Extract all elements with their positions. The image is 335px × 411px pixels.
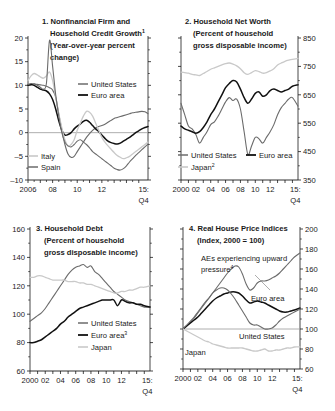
panel-1-title: 1. Nonfinancial Firm and Household Credi…: [42, 17, 145, 62]
p4-ytick-0: 200: [305, 225, 318, 234]
panel-3-legend-label-japan: Japan: [91, 343, 112, 352]
panel-1-legend-label-spain: Spain: [41, 163, 60, 172]
panel-2-legend-label-japan: Japan2: [191, 162, 215, 172]
p3-ytick-0: 160: [12, 225, 25, 234]
p3-series-japan: [30, 276, 150, 293]
p4-xtick-second-line: Q4: [292, 385, 302, 394]
p3-ytick-4: 80: [17, 338, 25, 347]
panel-1-legend: United States Euro area Italy Spain: [28, 80, 137, 172]
panel-4-title-line-1: 4. Real House Price Indices: [189, 224, 288, 233]
p3-ytick-5: 60: [17, 367, 25, 376]
p4-xtick-4: 08: [238, 374, 246, 383]
p3-series-united-states: [30, 264, 150, 321]
p1-ytick-3: 5: [19, 105, 23, 114]
p2-xtick-2: 04: [206, 185, 214, 194]
figure-container: 1. Nonfinancial Firm and Household Credi…: [0, 0, 335, 411]
p2-series-japan: [181, 58, 298, 75]
p4-ytick-3: 140: [305, 285, 318, 294]
p1-ytick-2: 10: [15, 81, 23, 90]
panel-4-title-line-2: (Index, 2000 = 100): [197, 236, 265, 245]
p4-xtick-7: 15:: [292, 374, 303, 383]
p2-xtick-second-line: Q4: [290, 196, 300, 205]
panel-3-legend-label-us: United States: [91, 319, 137, 328]
p4-ytick-5: 100: [305, 325, 318, 334]
panel-2-legend-label-ea: Euro area: [259, 151, 293, 160]
p3-ytick-2: 120: [12, 282, 25, 291]
p4-ytick-7: 60: [305, 365, 313, 374]
p4-ytick-4: 120: [305, 305, 318, 314]
p4-ytick-6: 80: [305, 345, 313, 354]
panel-4-annotation-aes-line-1: AEs experiencing upward: [201, 254, 287, 263]
p2-series-united-states: [181, 97, 298, 155]
p3-ytick-3: 100: [12, 310, 25, 319]
p1-xtick-2: 10: [73, 185, 81, 194]
p2-ytick-3: 550: [303, 119, 316, 128]
p1-ytick-4: 0: [19, 128, 23, 137]
p1-xtick-second-line: Q4: [139, 196, 149, 205]
panel-3-title: 3. Household Debt (Percent of household …: [36, 224, 138, 257]
panel-2-title-line-3: gross disposable income): [193, 41, 287, 50]
p2-xtick-0: 2000: [173, 185, 190, 194]
panel-2-title-line-1: 2. Household Net Worth: [185, 17, 271, 26]
panel-1-title-line-3: (Year-over-year percent: [50, 41, 135, 50]
p2-ytick-0: 850: [303, 34, 316, 43]
p3-xtick-0: 2000: [22, 376, 39, 385]
p1-xtick-3: 12: [98, 185, 106, 194]
panel-4-real-house-price-indices: 4. Real House Price Indices (Index, 2000…: [167, 205, 335, 411]
p4-xtick-2: 04: [208, 374, 216, 383]
p3-xtick-1: 02: [41, 376, 49, 385]
p1-ytick-1: 15: [15, 57, 23, 66]
panel-4-annotations: AEs experiencing upward pressure4 Euro a…: [185, 254, 287, 357]
panel-4-chart: 4. Real House Price Indices (Index, 2000…: [167, 205, 335, 411]
panel-1-title-line-4: change): [50, 53, 80, 62]
p2-ytick-5: 350: [303, 176, 316, 185]
p4-xtick-6: 12: [268, 374, 276, 383]
panel-4-title: 4. Real House Price Indices (Index, 2000…: [189, 224, 288, 245]
p4-ytick-2: 160: [305, 265, 318, 274]
panel-3-title-line-3: gross disposable income): [44, 248, 138, 257]
panel-1-chart: 1. Nonfinancial Firm and Household Credi…: [0, 0, 168, 206]
panel-3-legend: United States Euro area3 Japan: [78, 319, 137, 352]
panel-2-title-line-2: (Percent of household: [193, 29, 274, 38]
p2-ytick-4: 450: [303, 147, 316, 156]
p1-series-spain: [28, 40, 148, 170]
panel-1-title-line-1: 1. Nonfinancial Firm and: [42, 17, 131, 26]
p4-ytick-1: 180: [305, 245, 318, 254]
panel-1-legend-label-us: United States: [91, 80, 137, 89]
p2-ytick-1: 750: [303, 62, 316, 71]
p2-xtick-1: 02: [192, 185, 200, 194]
panel-1-legend-label-italy: Italy: [41, 152, 55, 161]
p3-xtick-4: 08: [87, 376, 95, 385]
p4-xtick-5: 10: [253, 374, 261, 383]
p3-xtick-7: 15:: [142, 376, 153, 385]
p2-xtick-7: 15:: [290, 185, 301, 194]
panel-4-annotation-japan: Japan: [185, 348, 206, 357]
panel-2-axes: [178, 36, 301, 183]
panel-3-title-line-1: 3. Household Debt: [36, 224, 103, 233]
p2-xtick-4: 08: [236, 185, 244, 194]
panel-2-legend-label-us: United States: [191, 151, 237, 160]
p1-ytick-0: 20: [15, 34, 23, 43]
p3-xtick-2: 04: [56, 376, 64, 385]
panel-3-series: [30, 264, 150, 342]
panel-4-annotation-aes-line-2: pressure4: [201, 264, 234, 274]
p3-xtick-3: 06: [71, 376, 79, 385]
p2-xtick-3: 06: [221, 185, 229, 194]
panel-3-household-debt: 3. Household Debt (Percent of household …: [0, 205, 168, 411]
panel-2-household-net-worth: 2. Household Net Worth (Percent of house…: [167, 0, 335, 206]
p2-xtick-6: 12: [266, 185, 274, 194]
p3-xtick-5: 10: [102, 376, 110, 385]
panel-4-annotation-euro-area: Euro area: [251, 294, 285, 303]
p1-ytick-5: –5: [15, 152, 23, 161]
panel-1-nonfinancial-firm-household-credit-growth: 1. Nonfinancial Firm and Household Credi…: [0, 0, 168, 206]
panel-2-title: 2. Household Net Worth (Percent of house…: [185, 17, 287, 50]
p1-xtick-4: 15:: [138, 185, 149, 194]
p4-xtick-1: 02: [194, 374, 202, 383]
p3-xtick-6: 12: [117, 376, 125, 385]
panel-3-chart: 3. Household Debt (Percent of household …: [0, 205, 168, 411]
panel-1-series: [28, 40, 148, 170]
p3-ytick-1: 140: [12, 253, 25, 262]
panel-2-legend: United States Euro area Japan2: [178, 151, 293, 172]
p2-ytick-2: 650: [303, 91, 316, 100]
panel-2-chart: 2. Household Net Worth (Percent of house…: [167, 0, 335, 206]
